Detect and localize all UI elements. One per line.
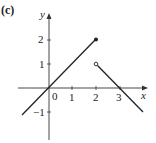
tick-label-x1: 1 — [69, 91, 75, 103]
tick-label-x3: 3 — [116, 91, 122, 103]
tick-label-0: 0 — [52, 90, 58, 102]
tick-label-y2: 2 — [38, 33, 44, 45]
open-endpoint — [94, 62, 98, 66]
tick-label-x2: 2 — [93, 91, 99, 103]
piecewise-graph: y x 0 1 2 3 2 1 −1 — [0, 0, 156, 143]
tick-label-yn1: −1 — [33, 106, 45, 118]
y-axis-label: y — [39, 8, 45, 20]
segment-1 — [22, 40, 95, 115]
segment-2 — [98, 66, 144, 113]
y-axis-arrow-icon — [47, 13, 52, 19]
tick-label-y1: 1 — [39, 58, 45, 70]
x-axis-label: x — [140, 89, 146, 101]
closed-endpoint — [94, 38, 98, 42]
